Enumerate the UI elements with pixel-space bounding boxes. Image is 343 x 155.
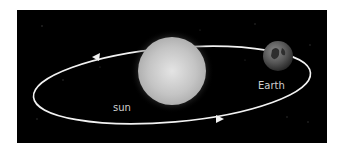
orbit-diagram: Earth sun (0, 0, 343, 155)
earth-label: Earth (258, 80, 285, 91)
sun-label: sun (113, 102, 131, 113)
sun-icon (138, 37, 206, 105)
